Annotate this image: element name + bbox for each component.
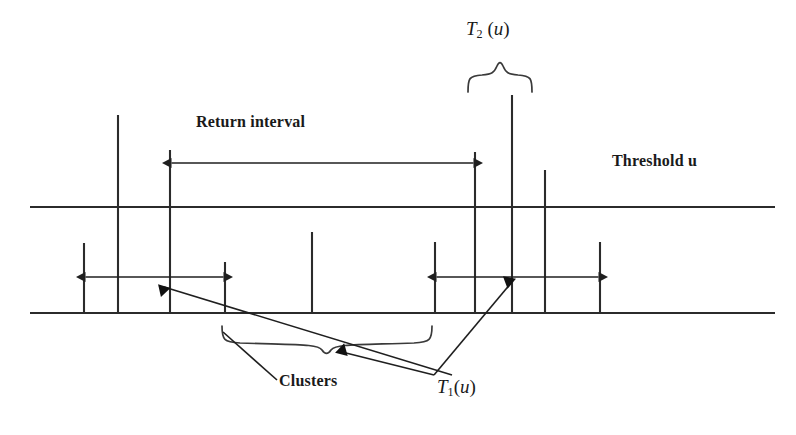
t2-brace [468, 63, 532, 92]
t2-symbol: T [466, 18, 477, 39]
t2-brace-path [468, 63, 532, 92]
t2-paren-close: ) [503, 18, 509, 39]
measurement-arrows [86, 163, 599, 277]
t2-label: T2 (u) [466, 18, 510, 42]
clusters-label: Clusters [279, 372, 337, 390]
t1-symbol: T [437, 376, 448, 397]
clusters-threshold-diagram: Return interval Threshold u Clusters T1(… [0, 0, 796, 435]
clusters-brace [222, 326, 432, 353]
t1-leader-to-left-cluster [164, 287, 452, 375]
t2-paren-open: ( [483, 18, 494, 39]
t1-label: T1(u) [437, 376, 476, 400]
return-interval-label: Return interval [196, 113, 305, 131]
diagram-canvas [0, 0, 796, 435]
exceedance-spikes [84, 95, 600, 313]
clusters-brace-path [222, 326, 432, 353]
t2-argument: u [494, 18, 504, 39]
horizontal-reference-lines [30, 207, 775, 313]
clusters-leader [223, 332, 277, 380]
t1-leader-to-right-cluster [434, 283, 511, 375]
leader-lines [164, 283, 511, 380]
t1-paren-close: ) [469, 376, 475, 397]
threshold-label: Threshold u [612, 152, 697, 170]
